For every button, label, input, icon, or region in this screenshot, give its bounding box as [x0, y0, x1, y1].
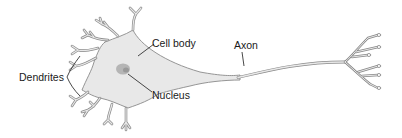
label-axon: Axon: [234, 40, 258, 51]
label-cell-body: Cell body: [152, 38, 196, 49]
axon: [238, 62, 345, 78]
label-nucleus: Nucleus: [152, 90, 190, 101]
axon-leader: [242, 52, 244, 66]
axon-terminals: [345, 35, 378, 88]
neuron: [70, 8, 381, 130]
label-dendrites: Dendrites: [19, 72, 64, 83]
neuron-diagram: [0, 0, 402, 138]
